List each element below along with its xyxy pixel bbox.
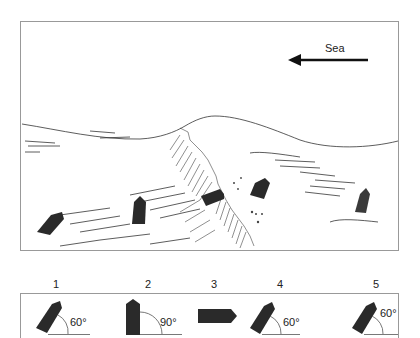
scene-panel: Sea (21, 22, 399, 251)
legend-item-3 (198, 309, 237, 323)
legend-item-5: 60° (352, 302, 398, 335)
angle-label-1: 60° (70, 316, 87, 328)
legend-number-4: 4 (277, 278, 283, 290)
legend-item-1: 60° (36, 301, 90, 335)
legend-number-1: 1 (53, 278, 59, 290)
legend-item-4: 60° (250, 302, 300, 335)
diagram-canvas: Sea (0, 0, 420, 338)
legend-number-2: 2 (145, 278, 151, 290)
legend-item-2: 90° (126, 299, 182, 335)
sea-label: Sea (325, 42, 345, 54)
legend-number-3: 3 (211, 278, 217, 290)
legend-number-5: 5 (373, 278, 379, 290)
angle-label-4: 60° (283, 316, 300, 328)
orientation-legend: 1 2 3 4 5 60° 90° 60° (20, 278, 399, 338)
angle-label-2: 90° (160, 316, 177, 328)
angle-label-5: 60° (380, 307, 397, 319)
